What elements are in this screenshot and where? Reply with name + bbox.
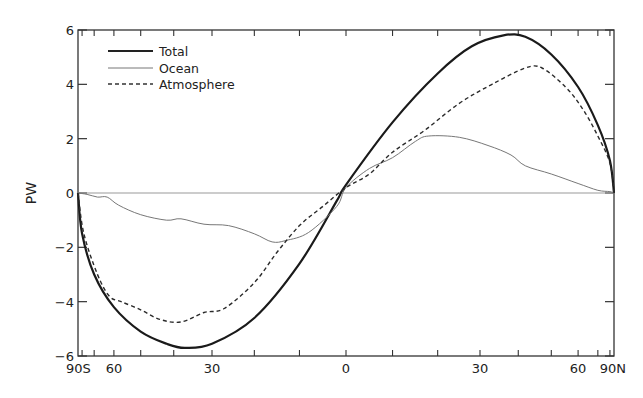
legend: Total Ocean Atmosphere bbox=[108, 44, 235, 92]
x-tick-label: 30 bbox=[472, 361, 489, 376]
x-tick-label: 30 bbox=[204, 361, 221, 376]
x-tick-label: 0 bbox=[342, 361, 350, 376]
y-tick-label: 6 bbox=[66, 23, 74, 38]
series-atmosphere bbox=[78, 66, 614, 323]
legend-label-total: Total bbox=[158, 44, 188, 59]
heat-transport-chart: −6−4−20246 90S60300306090N Total Ocean A… bbox=[0, 0, 643, 398]
y-tick-label: 0 bbox=[66, 186, 74, 201]
y-axis-label: PW bbox=[23, 182, 39, 204]
x-axis: 90S60300306090N bbox=[66, 30, 626, 376]
series-ocean bbox=[78, 136, 614, 243]
y-tick-label: −4 bbox=[55, 295, 74, 310]
x-tick-label: 90N bbox=[600, 361, 626, 376]
legend-label-ocean: Ocean bbox=[159, 61, 199, 76]
y-tick-label: 4 bbox=[66, 77, 74, 92]
y-tick-label: 2 bbox=[66, 132, 74, 147]
x-tick-label: 60 bbox=[106, 361, 123, 376]
legend-label-atmosphere: Atmosphere bbox=[159, 77, 235, 92]
y-tick-label: −2 bbox=[55, 240, 74, 255]
x-tick-label: 90S bbox=[66, 361, 91, 376]
x-tick-label: 60 bbox=[570, 361, 587, 376]
